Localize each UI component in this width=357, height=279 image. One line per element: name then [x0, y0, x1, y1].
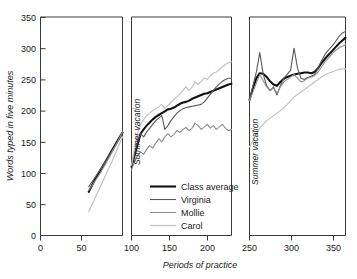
legend-label-mollie: Mollie [181, 208, 205, 218]
chart-figure: 350 300 250 200 150 100 50 0 Words typed… [0, 0, 357, 279]
x-axis-ticks [41, 236, 334, 241]
x-tick-label: 150 [162, 243, 177, 253]
series-line-carol [250, 69, 346, 147]
series-line-class-average [132, 84, 232, 167]
panel-3-frame [250, 17, 346, 236]
x-tick-label: 100 [124, 243, 139, 253]
y-tick-label: 200 [21, 106, 36, 116]
x-tick-label: 200 [200, 243, 215, 253]
series-line-virginia [250, 31, 346, 99]
y-axis: 350 300 250 200 150 100 50 0 Words typed… [5, 13, 46, 241]
y-tick-label: 150 [21, 138, 36, 148]
y-tick-label: 350 [21, 13, 36, 23]
y-tick-label: 300 [21, 44, 36, 54]
legend-label-virginia: Virginia [181, 195, 211, 205]
summer-vacation-label-1: Summer vacation [132, 99, 142, 165]
x-tick-label: 0 [38, 243, 43, 253]
y-axis-tick-labels: 350 300 250 200 150 100 50 0 [21, 13, 36, 241]
legend-label-carol: Carol [181, 221, 203, 231]
series-line-mollie [132, 123, 232, 170]
legend: Class average Virginia Mollie Carol [150, 182, 239, 231]
x-tick-label: 50 [76, 243, 86, 253]
x-tick-label: 350 [326, 243, 341, 253]
y-tick-label: 100 [21, 169, 36, 179]
legend-label-class-average: Class average [181, 182, 239, 192]
y-tick-label: 50 [26, 200, 36, 210]
y-axis-title: Words typed in five minutes [5, 70, 15, 181]
chart-svg: 350 300 250 200 150 100 50 0 Words typed… [0, 0, 357, 279]
panel-1-frame [41, 17, 123, 236]
x-tick-label: 250 [242, 243, 257, 253]
x-tick-label: 300 [284, 243, 299, 253]
x-axis: 0 50 100 150 200 250 300 350 Periods of … [38, 236, 341, 271]
x-axis-title: Periods of practice [163, 260, 238, 270]
summer-vacation-label-2: Summer vacation [250, 119, 260, 185]
y-tick-label: 0 [31, 231, 36, 241]
series-line-carol [89, 137, 123, 212]
x-axis-tick-labels: 0 50 100 150 200 250 300 350 [38, 243, 341, 253]
y-axis-ticks [41, 18, 46, 236]
y-tick-label: 250 [21, 75, 36, 85]
